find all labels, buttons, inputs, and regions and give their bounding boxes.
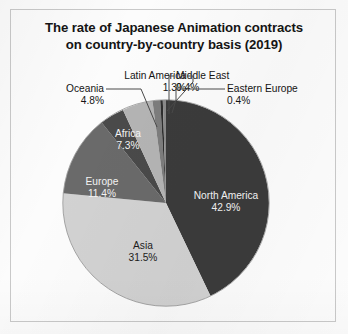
chart-title-line-2: on country-by-country basis (2019) <box>14 36 334 53</box>
slice-label-latin-america-value: 1.3% <box>85 82 186 94</box>
slice-label-eastern-europe-value: 0.4% <box>227 95 298 107</box>
slice-label-middle-east-name: Middle East <box>176 70 229 81</box>
pie-chart <box>62 99 270 307</box>
slice-label-latin-america: Latin America 1.3% <box>85 70 186 95</box>
chart-image: The rate of Japanese Animation contracts… <box>0 0 348 334</box>
slice-label-eastern-europe-name: Eastern Europe <box>227 83 298 94</box>
chart-title-line-1: The rate of Japanese Animation contracts <box>45 20 303 35</box>
slice-label-middle-east-value: 0.4% <box>176 82 229 94</box>
slice-label-eastern-europe: Eastern Europe 0.4% <box>227 83 298 108</box>
slice-label-middle-east: Middle East 0.4% <box>176 70 229 95</box>
slice-label-oceania-value: 4.8% <box>26 95 104 107</box>
pie-svg <box>62 99 270 307</box>
chart-title: The rate of Japanese Animation contracts… <box>14 19 334 53</box>
